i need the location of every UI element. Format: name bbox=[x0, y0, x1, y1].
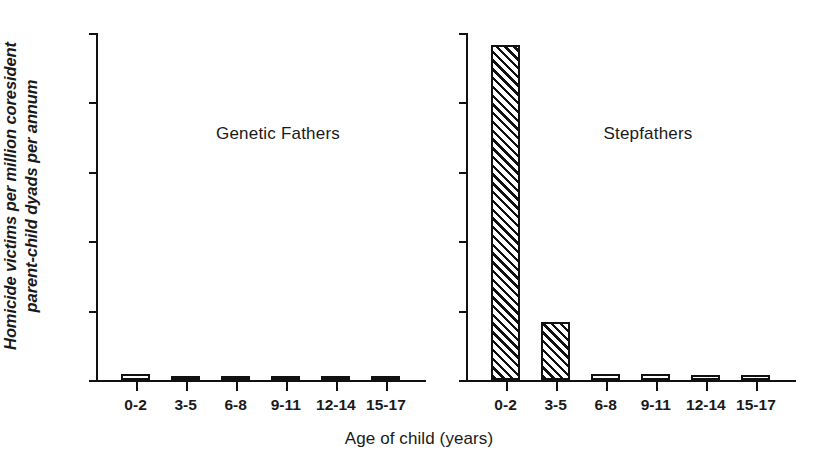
bar bbox=[271, 376, 300, 380]
x-axis-tick bbox=[506, 382, 508, 391]
y-axis-tick bbox=[89, 172, 98, 174]
x-tick-labels-left: 0-23-56-89-1112-1415-17 bbox=[96, 396, 428, 420]
bar bbox=[221, 376, 250, 380]
x-axis-title: Age of child (years) bbox=[0, 429, 838, 449]
y-axis-tick bbox=[89, 102, 98, 104]
x-tick-label: 3-5 bbox=[174, 396, 196, 414]
y-axis-tick bbox=[459, 102, 468, 104]
bar bbox=[641, 374, 670, 380]
x-axis-tick bbox=[606, 382, 608, 391]
x-axis-tick bbox=[556, 382, 558, 391]
x-axis-tick bbox=[236, 382, 238, 391]
x-tick-label: 3-5 bbox=[544, 396, 566, 414]
x-tick-label: 15-17 bbox=[366, 396, 406, 414]
y-axis-tick bbox=[89, 311, 98, 313]
y-axis-title-line1: Homicide victims per million coresident bbox=[0, 0, 21, 392]
x-tick-label: 0-2 bbox=[494, 396, 516, 414]
x-axis-tick bbox=[136, 382, 138, 391]
y-axis-tick bbox=[89, 33, 98, 35]
y-axis-tick bbox=[459, 172, 468, 174]
panel-stepfathers: Stepfathers 0-23-56-89-1112-1415-17 bbox=[466, 30, 798, 412]
x-axis-tick bbox=[386, 382, 388, 391]
x-tick-label: 0-2 bbox=[124, 396, 146, 414]
bar bbox=[121, 374, 150, 380]
chart-figure: Homicide victims per million coresident … bbox=[0, 0, 838, 472]
x-axis-tick bbox=[756, 382, 758, 391]
x-axis-tick bbox=[286, 382, 288, 391]
x-tick-label: 15-17 bbox=[736, 396, 776, 414]
x-tick-label: 9-11 bbox=[641, 396, 671, 414]
y-axis-tick bbox=[89, 241, 98, 243]
bar bbox=[691, 375, 720, 380]
y-axis-title: Homicide victims per million coresident … bbox=[0, 0, 86, 400]
bar bbox=[371, 376, 400, 380]
x-axis-tick bbox=[336, 382, 338, 391]
bar bbox=[741, 375, 770, 380]
x-axis-line-right bbox=[466, 380, 796, 382]
y-axis-tick bbox=[89, 380, 98, 382]
bar bbox=[591, 374, 620, 380]
x-axis-tick bbox=[706, 382, 708, 391]
x-axis-tick bbox=[186, 382, 188, 391]
bar bbox=[491, 45, 520, 380]
y-axis-tick bbox=[459, 33, 468, 35]
x-tick-label: 6-8 bbox=[595, 396, 617, 414]
y-axis-title-line2: parent-child dyads per annum bbox=[21, 0, 42, 392]
x-tick-label: 9-11 bbox=[271, 396, 301, 414]
bar bbox=[541, 322, 570, 380]
x-axis-tick bbox=[656, 382, 658, 391]
x-tick-label: 12-14 bbox=[686, 396, 726, 414]
bar bbox=[321, 376, 350, 380]
plot-area-left bbox=[98, 33, 426, 380]
y-axis-tick bbox=[459, 241, 468, 243]
y-axis-tick bbox=[459, 380, 468, 382]
plot-area-right bbox=[468, 33, 796, 380]
x-tick-label: 12-14 bbox=[316, 396, 356, 414]
y-axis-tick bbox=[459, 311, 468, 313]
x-axis-line-left bbox=[96, 380, 426, 382]
x-tick-labels-right: 0-23-56-89-1112-1415-17 bbox=[466, 396, 798, 420]
panel-genetic-fathers: Genetic Fathers 0-23-56-89-1112-1415-17 bbox=[96, 30, 428, 412]
x-tick-label: 6-8 bbox=[225, 396, 247, 414]
bar bbox=[171, 376, 200, 380]
